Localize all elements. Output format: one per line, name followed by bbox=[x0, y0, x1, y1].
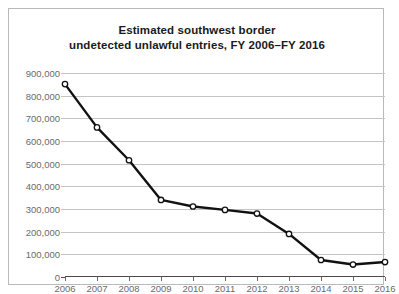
x-tick-mark bbox=[65, 277, 66, 281]
y-tick-label: 700,000 bbox=[26, 113, 60, 124]
x-tick-mark bbox=[385, 277, 386, 281]
series-undetected-entries bbox=[65, 73, 385, 277]
x-tick-label: 2016 bbox=[374, 283, 395, 294]
x-tick-mark bbox=[193, 277, 194, 281]
data-point-marker bbox=[94, 125, 99, 130]
data-point-marker bbox=[318, 257, 323, 262]
x-tick-label: 2009 bbox=[150, 283, 171, 294]
data-point-marker bbox=[350, 262, 355, 267]
y-tick-label: 300,000 bbox=[26, 204, 60, 215]
x-tick-mark bbox=[353, 277, 354, 281]
y-tick-label: 200,000 bbox=[26, 226, 60, 237]
data-point-marker bbox=[286, 231, 291, 236]
x-tick-label: 2012 bbox=[246, 283, 267, 294]
data-point-marker bbox=[62, 81, 67, 86]
x-tick-label: 2007 bbox=[86, 283, 107, 294]
x-tick-label: 2011 bbox=[215, 283, 235, 294]
x-tick-label: 2010 bbox=[182, 283, 203, 294]
y-tick-label: 800,000 bbox=[26, 90, 60, 101]
x-tick-mark bbox=[257, 277, 258, 281]
plot-area: 0100,000200,000300,000400,000500,000600,… bbox=[65, 73, 385, 277]
y-tick-label: 0 bbox=[55, 272, 60, 283]
x-tick-label: 2013 bbox=[278, 283, 299, 294]
data-point-marker bbox=[382, 259, 387, 264]
x-tick-mark bbox=[289, 277, 290, 281]
x-tick-mark bbox=[97, 277, 98, 281]
x-tick-mark bbox=[161, 277, 162, 281]
chart-title-line-1: Estimated southwest border bbox=[9, 23, 385, 38]
series-line bbox=[65, 84, 385, 264]
x-tick-label: 2008 bbox=[118, 283, 139, 294]
x-tick-mark bbox=[129, 277, 130, 281]
data-point-marker bbox=[254, 211, 259, 216]
chart-figure: Estimated southwest border undetected un… bbox=[0, 0, 399, 294]
data-point-marker bbox=[222, 207, 227, 212]
series-markers bbox=[62, 81, 387, 267]
data-point-marker bbox=[158, 197, 163, 202]
chart-title-line-2: undetected unlawful entries, FY 2006–FY … bbox=[9, 38, 385, 53]
x-tick-mark bbox=[225, 277, 226, 281]
data-point-marker bbox=[126, 158, 131, 163]
x-tick-mark bbox=[321, 277, 322, 281]
data-point-marker bbox=[190, 204, 195, 209]
y-tick-label: 100,000 bbox=[26, 249, 60, 260]
y-tick-label: 600,000 bbox=[26, 136, 60, 147]
y-tick-label: 400,000 bbox=[26, 181, 60, 192]
chart-frame: Estimated southwest border undetected un… bbox=[8, 8, 384, 285]
x-tick-label: 2014 bbox=[310, 283, 331, 294]
y-tick-label: 900,000 bbox=[26, 68, 60, 79]
x-tick-label: 2006 bbox=[54, 283, 75, 294]
x-tick-label: 2015 bbox=[342, 283, 363, 294]
chart-title: Estimated southwest border undetected un… bbox=[9, 23, 385, 53]
y-tick-label: 500,000 bbox=[26, 158, 60, 169]
